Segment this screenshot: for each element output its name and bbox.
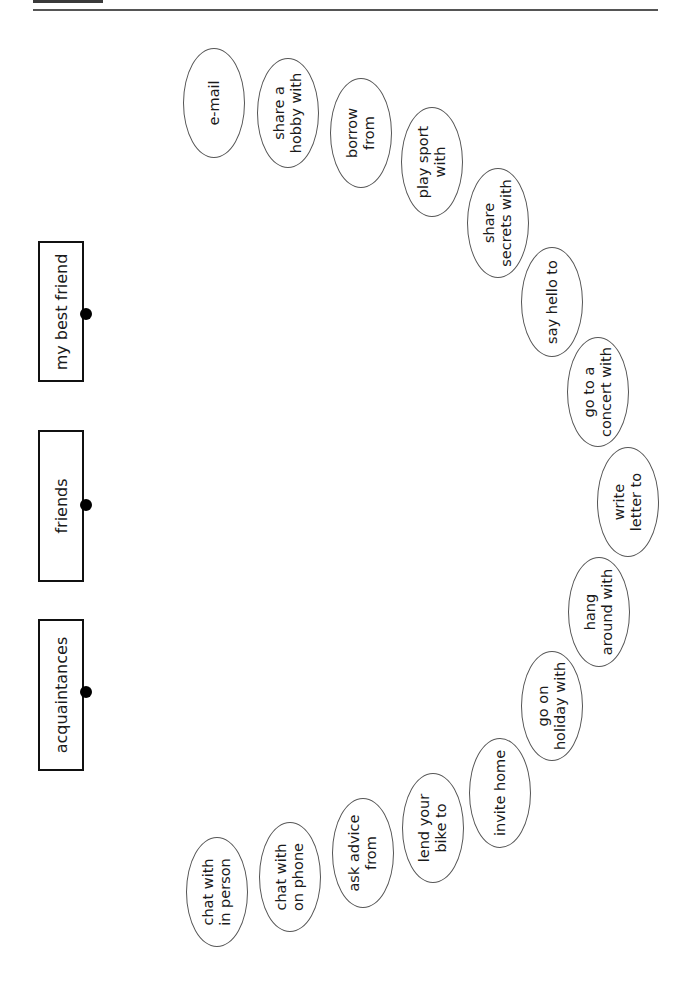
activity-ellipse[interactable]: hang around with	[568, 557, 630, 667]
category-box-friends[interactable]: friends	[38, 430, 84, 582]
activity-label: go on holiday with	[535, 662, 569, 750]
activity-label: share a hobby with	[271, 73, 305, 153]
activity-ellipse[interactable]: e-mail	[183, 48, 245, 158]
activity-ellipse[interactable]: say hello to	[521, 247, 583, 357]
activity-ellipse[interactable]: borrow from	[330, 78, 392, 188]
activity-ellipse[interactable]: play sport with	[401, 107, 463, 217]
activity-label: lend your bike to	[416, 794, 450, 863]
connector-dot[interactable]	[80, 308, 92, 320]
category-box-my-best-friend[interactable]: my best friend	[38, 241, 84, 382]
connector-dot[interactable]	[80, 686, 92, 698]
activity-label: chat with on phone	[273, 843, 307, 911]
activity-label: invite home	[492, 750, 509, 836]
activity-ellipse[interactable]: invite home	[469, 738, 531, 848]
activity-ellipse[interactable]: share a hobby with	[257, 58, 319, 168]
activity-label: go to a concert with	[581, 347, 615, 437]
activity-label: hang around with	[582, 569, 616, 655]
activity-label: share secrets with	[481, 179, 515, 267]
activity-label: chat with in person	[200, 858, 234, 926]
category-label: acquaintances	[52, 637, 71, 753]
activity-ellipse[interactable]: lend your bike to	[402, 773, 464, 883]
activity-ellipse[interactable]: go to a concert with	[567, 337, 629, 447]
activity-label: play sport with	[415, 126, 449, 199]
activity-ellipse[interactable]: chat with on phone	[259, 822, 321, 932]
activity-label: say hello to	[544, 260, 561, 344]
activity-label: borrow from	[344, 108, 378, 158]
header-rule	[33, 9, 658, 11]
category-box-acquaintances[interactable]: acquaintances	[38, 619, 84, 771]
activity-ellipse[interactable]: share secrets with	[467, 168, 529, 278]
activity-label: e-mail	[206, 80, 223, 125]
category-label: my best friend	[52, 253, 71, 370]
activity-ellipse[interactable]: go on holiday with	[521, 651, 583, 761]
activity-ellipse[interactable]: write letter to	[597, 447, 659, 557]
connector-dot[interactable]	[80, 499, 92, 511]
activity-ellipse[interactable]: ask advice from	[332, 798, 394, 908]
category-label: friends	[52, 478, 71, 533]
activity-label: ask advice from	[346, 814, 380, 891]
activity-label: write letter to	[611, 473, 645, 531]
cut-off-heading	[33, 0, 103, 3]
activity-ellipse[interactable]: chat with in person	[186, 837, 248, 947]
